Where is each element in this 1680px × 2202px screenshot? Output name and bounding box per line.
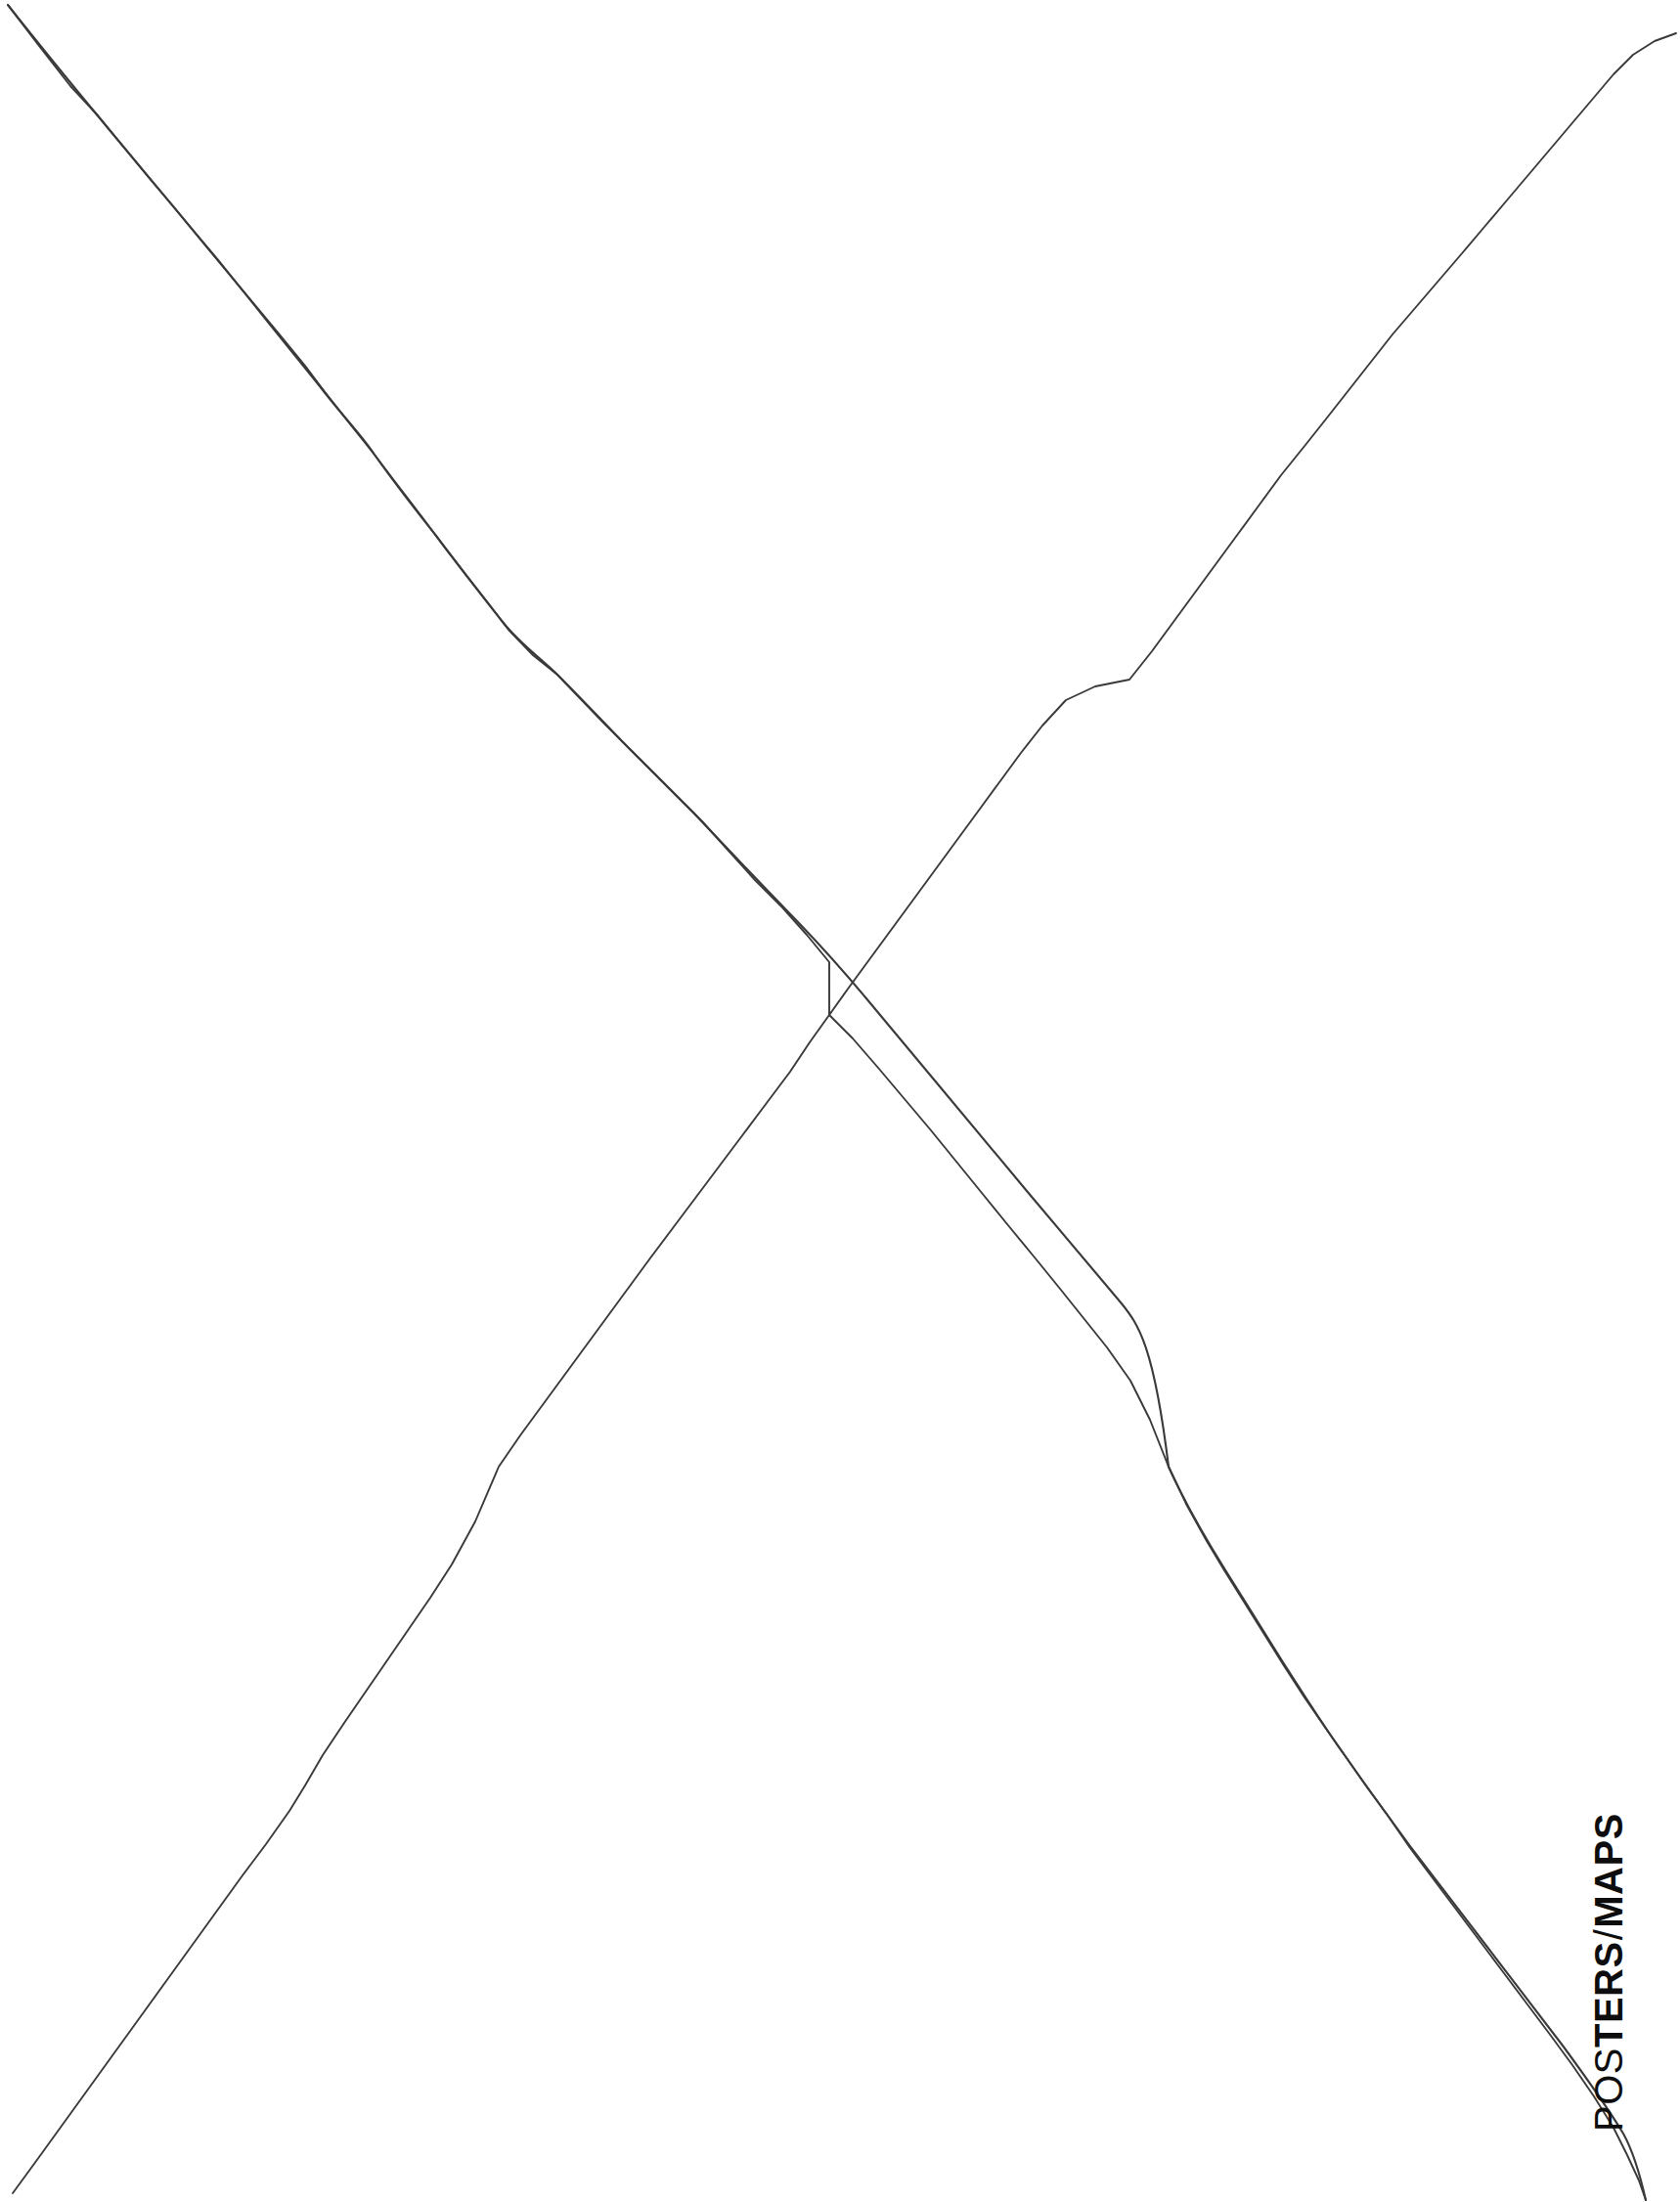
label-segment-ters: TERS	[1589, 1941, 1628, 2048]
label-segment-maps: MAPS	[1589, 1813, 1628, 1928]
poster-page: POSTERS/MAPS	[0, 0, 1680, 2202]
hand-drawn-x-artwork	[0, 0, 1680, 2202]
label-segment-slash: /	[1589, 1928, 1628, 1942]
label-segment-pos: POS	[1589, 2048, 1628, 2132]
posters-maps-label: POSTERS/MAPS	[1582, 1838, 1635, 2132]
